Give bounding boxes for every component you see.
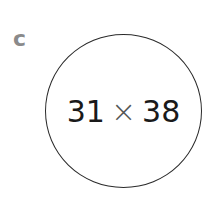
- times-operator: ×: [111, 94, 136, 129]
- multiplication-expression: 31×38: [67, 94, 181, 129]
- problem-label: c: [13, 28, 26, 50]
- expression-circle: 31×38: [45, 34, 202, 188]
- right-operand: 38: [142, 94, 180, 129]
- left-operand: 31: [67, 94, 105, 129]
